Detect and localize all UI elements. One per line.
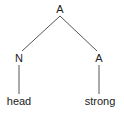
right-leaf-label: strong (85, 95, 116, 107)
right-node-label: A (95, 52, 102, 64)
edge-root-left (22, 16, 60, 51)
root-node-label: A (56, 3, 63, 15)
left-leaf-label: head (7, 95, 31, 107)
left-node-label: N (15, 52, 23, 64)
edge-root-right (60, 16, 97, 51)
